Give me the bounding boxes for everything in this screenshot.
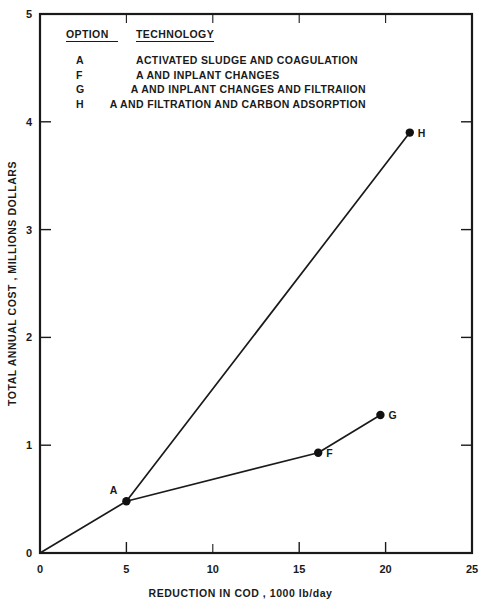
legend: OPTION TECHNOLOGY AACTIVATED SLUDGE AND … [66,28,366,111]
legend-row: GA AND INPLANT CHANGES AND FILTRAIION [66,82,366,97]
legend-technology-text: A AND FILTRATION AND CARBON ADSORPTION [110,97,366,112]
legend-technology-text: ACTIVATED SLUDGE AND COAGULATION [136,53,358,68]
x-tick-label: 5 [123,563,129,575]
legend-row: HA AND FILTRATION AND CARBON ADSORPTION [66,97,366,112]
y-axis-ticks-right [461,122,472,445]
data-point-labels-group: AFGH [110,127,426,497]
series-line [126,415,380,501]
x-tick-label: 10 [207,563,219,575]
x-axis-title: REDUCTION IN COD , 1000 lb/day [149,587,333,599]
legend-technology-text: A AND INPLANT CHANGES AND FILTRAIION [131,82,366,97]
y-tick-label: 2 [26,331,32,343]
x-tick-label: 25 [466,563,478,575]
x-tick-label: 20 [379,563,391,575]
legend-option-code: A [66,53,118,68]
legend-option-code: G [66,82,113,97]
y-tick-labels: 5 4 3 2 1 0 [26,8,33,559]
y-axis-title: TOTAL ANNUAL COST , MILLIONS DOLLARS [6,161,18,406]
x-axis-ticks-top [126,14,385,23]
legend-technology-text: A AND INPLANT CHANGES [136,68,280,83]
data-point-marker [122,497,130,505]
data-point-marker [314,449,322,457]
data-point-marker [406,128,414,136]
y-tick-label: 0 [26,547,32,559]
x-axis-ticks [126,542,385,553]
series-line [40,133,410,553]
data-point-label: A [110,484,118,496]
y-tick-label: 1 [26,439,32,451]
legend-row: AACTIVATED SLUDGE AND COAGULATION [66,53,366,68]
data-point-label: F [326,447,333,459]
x-tick-labels: 0 5 10 15 20 25 [37,563,478,575]
x-tick-label: 0 [37,563,43,575]
data-point-label: G [388,409,396,421]
y-tick-label: 4 [26,116,33,128]
legend-header-technology: TECHNOLOGY [136,28,214,42]
x-tick-label: 15 [293,563,305,575]
data-point-label: H [418,127,426,139]
legend-header-option: OPTION [66,28,118,42]
data-series-group [40,133,410,553]
legend-row: FA AND INPLANT CHANGES [66,68,366,83]
legend-header-row: OPTION TECHNOLOGY [66,28,366,42]
chart-page: 5 4 3 2 1 0 0 5 10 15 20 25 AFGH REDUCTI… [0,0,481,603]
y-axis-ticks [40,14,51,553]
data-point-marker [376,411,384,419]
y-tick-label: 3 [26,224,32,236]
legend-rows: AACTIVATED SLUDGE AND COAGULATIONFA AND … [66,53,366,111]
y-tick-label: 5 [26,8,32,20]
legend-option-code: F [66,68,118,83]
legend-option-code: H [66,97,92,112]
